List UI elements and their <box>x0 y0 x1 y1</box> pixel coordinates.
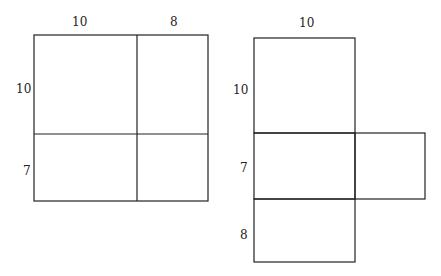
right-net-figure <box>254 38 425 262</box>
left-side-label-10: 10 <box>16 82 31 96</box>
right-side-label-7: 7 <box>240 161 248 175</box>
right-top-square <box>254 38 355 133</box>
right-top-label-10: 10 <box>299 16 314 30</box>
right-bottom-rect <box>254 199 355 262</box>
left-top-label-8: 8 <box>170 15 178 29</box>
left-outer-rect <box>34 35 208 201</box>
right-side-label-10: 10 <box>233 83 248 97</box>
left-top-label-10: 10 <box>72 15 87 29</box>
left-side-label-7: 7 <box>23 164 31 178</box>
left-rectangle-figure <box>34 35 208 201</box>
right-side-label-8: 8 <box>240 228 248 242</box>
right-side-rect <box>355 133 425 199</box>
right-middle-rect <box>254 133 355 199</box>
diagram-canvas <box>0 0 441 276</box>
